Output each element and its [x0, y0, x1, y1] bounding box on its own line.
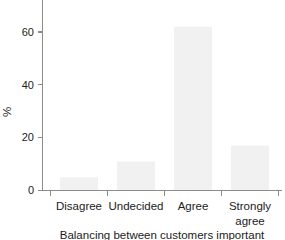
- y-tick-label-40: 40: [22, 79, 34, 91]
- y-tick-label-0: 0: [28, 184, 34, 196]
- x-tick-label-agree: Agree: [178, 200, 209, 212]
- x-tick-label-undecided: Undecided: [109, 200, 164, 212]
- bar-undecided: [117, 161, 155, 190]
- chart-figure: 0 20 40 60 % Disagree Undecided Agree St…: [0, 0, 285, 240]
- x-tick-label-strongly-agree-line2: agree: [235, 215, 264, 227]
- y-axis-title: %: [1, 107, 13, 117]
- x-tick-label-disagree: Disagree: [56, 200, 102, 212]
- bar-agree: [174, 27, 212, 191]
- chart-caption: Balancing between customers important: [60, 229, 265, 240]
- bar-chart-plot: 0 20 40 60 % Disagree Undecided Agree St…: [0, 0, 285, 240]
- y-tick-label-60: 60: [22, 26, 34, 38]
- y-tick-label-20: 20: [22, 131, 34, 143]
- bar-disagree: [60, 177, 98, 190]
- x-tick-label-strongly-agree-line1: Strongly: [229, 200, 271, 212]
- bar-strongly-agree: [231, 146, 269, 191]
